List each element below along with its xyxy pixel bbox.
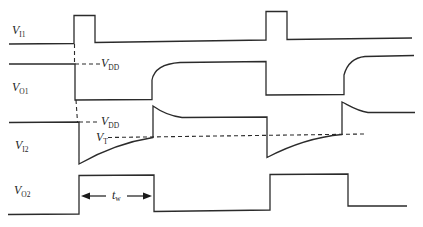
label-vt-subscript: T [103,137,108,146]
label-vi1-subscript: I1 [19,30,25,39]
label-tw-subscript: w [115,194,121,203]
label-vdd-2-subscript: DD [108,121,119,130]
label-vdd-1-subscript: DD [108,63,119,72]
label-vo1-subscript: O1 [19,87,28,96]
label-vo2-subscript: O2 [21,190,30,199]
background [0,0,423,227]
monostable-timing-diagram: VI1 VO1 VDD VDD VT VI2 VO2 tw [0,0,423,227]
label-vi2-subscript: I2 [22,145,28,154]
